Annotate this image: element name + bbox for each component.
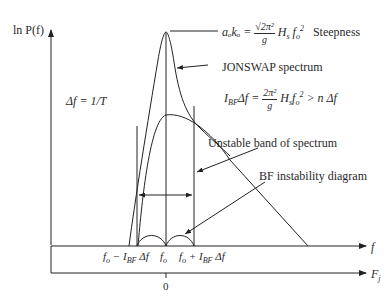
jonswap-leader: [177, 65, 208, 68]
fj-axis-label: Fj: [371, 268, 381, 283]
y-axis-label: ln P(f): [13, 24, 44, 36]
unstable-leader: [197, 148, 258, 172]
bf-lobe-left: [137, 236, 166, 247]
steepness-formula: aₒkₒ = √2π²g Hs fo2 Steepness: [222, 22, 360, 45]
unstable-band-label: Unstable band of spectrum: [208, 137, 337, 149]
bf-diagram-label: BF instability diagram: [259, 170, 367, 182]
zero-tick-label: 0: [163, 281, 169, 292]
delta-f-label: Δf = 1/T: [66, 95, 106, 107]
bfi-formula: IBFΔf = 2π²g Hsfo2 > n Δf: [224, 88, 337, 111]
bf-instability-diagram: ln P(f) f Fj 0 Δf = 1/T aₒkₒ = √2π²g Hs …: [0, 0, 390, 301]
x-tick-right: fo + IBF Δf: [179, 251, 225, 265]
jonswap-label: JONSWAP spectrum: [222, 61, 323, 73]
f-axis-label: f: [371, 241, 374, 253]
bf-lobe-right: [166, 236, 194, 247]
x-tick-left: fo − IBF Δf: [103, 251, 149, 265]
x-tick-center: fo: [160, 251, 167, 265]
bf-diagram-leader: [185, 182, 265, 234]
